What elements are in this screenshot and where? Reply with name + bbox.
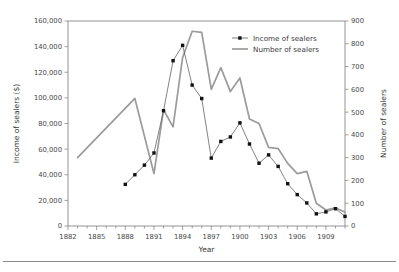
bottom-divider-rule xyxy=(3,261,396,262)
data-point-marker-income xyxy=(162,109,165,112)
data-point-marker-income xyxy=(133,173,136,176)
y-tick-label: 0 xyxy=(58,222,62,230)
data-point-marker-income xyxy=(219,140,222,143)
data-point-marker-income xyxy=(181,44,184,47)
data-point-marker-income xyxy=(238,121,241,124)
x-tick-label: 1888 xyxy=(117,233,134,241)
data-point-marker-income xyxy=(276,165,279,168)
y-tick-label: 20,000 xyxy=(38,197,62,205)
x-axis-title: Year xyxy=(198,245,216,254)
y-tick-label: 100,000 xyxy=(34,94,62,102)
data-point-marker-income xyxy=(267,153,270,156)
x-tick-label: 1882 xyxy=(59,233,76,241)
legend-label-0: Income of sealers xyxy=(253,34,317,43)
series-line-number-of-sealers xyxy=(78,31,345,212)
data-point-marker-income xyxy=(343,215,346,218)
y2-tick-label: 800 xyxy=(351,40,364,48)
data-point-marker-income xyxy=(286,182,289,185)
data-point-marker-income xyxy=(305,201,308,204)
data-point-marker-income xyxy=(324,210,327,213)
data-point-marker-income xyxy=(315,212,318,215)
y2-tick-label: 300 xyxy=(351,154,364,162)
chart-figure: 020,00040,00060,00080,000100,000120,0001… xyxy=(0,0,399,272)
y-tick-label: 160,000 xyxy=(34,17,62,25)
data-point-marker-income xyxy=(143,163,146,166)
data-point-marker-income xyxy=(190,83,193,86)
y2-tick-label: 100 xyxy=(351,200,364,208)
x-tick-label: 1906 xyxy=(289,233,306,241)
legend-label-1: Number of sealers xyxy=(253,45,319,54)
y-tick-label: 40,000 xyxy=(38,171,62,179)
chart-canvas: 020,00040,00060,00080,000100,000120,0001… xyxy=(0,0,399,272)
legend-marker-income xyxy=(238,36,241,39)
y2-tick-label: 200 xyxy=(351,177,364,185)
y-axis-title: Income of sealers ($) xyxy=(12,84,21,163)
y-tick-label: 140,000 xyxy=(34,43,62,51)
data-point-marker-income xyxy=(152,151,155,154)
x-tick-label: 1885 xyxy=(88,233,105,241)
data-point-marker-income xyxy=(210,156,213,159)
y-tick-label: 80,000 xyxy=(38,120,62,128)
data-point-marker-income xyxy=(257,162,260,165)
y-tick-label: 120,000 xyxy=(34,69,62,77)
data-point-marker-income xyxy=(334,207,337,210)
data-point-marker-income xyxy=(171,59,174,62)
y2-tick-label: 0 xyxy=(351,222,355,230)
y2-tick-label: 700 xyxy=(351,63,364,71)
y2-tick-label: 900 xyxy=(351,17,364,25)
legend-group: Income of sealersNumber of sealers xyxy=(232,34,319,54)
data-point-marker-income xyxy=(200,97,203,100)
x-tick-label: 1894 xyxy=(174,233,191,241)
data-point-marker-income xyxy=(296,193,299,196)
data-point-marker-income xyxy=(229,135,232,138)
y2-tick-label: 600 xyxy=(351,86,364,94)
data-point-marker-income xyxy=(248,142,251,145)
series-group xyxy=(78,31,347,218)
x-tick-label: 1909 xyxy=(317,233,334,241)
y2-tick-label: 400 xyxy=(351,131,364,139)
y-tick-label: 60,000 xyxy=(38,146,62,154)
y2-axis-title: Number of sealers xyxy=(379,89,388,158)
data-point-marker-income xyxy=(124,183,127,186)
x-tick-label: 1900 xyxy=(231,233,248,241)
x-tick-label: 1897 xyxy=(203,233,220,241)
x-tick-label: 1903 xyxy=(260,233,277,241)
y2-tick-label: 500 xyxy=(351,109,364,117)
x-tick-label: 1891 xyxy=(145,233,162,241)
